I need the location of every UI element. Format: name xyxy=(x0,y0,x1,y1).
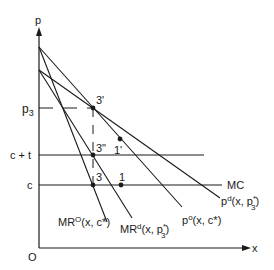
point-3 xyxy=(91,183,96,188)
point-1-prime xyxy=(118,137,123,142)
point-3-prime-label: 3' xyxy=(96,94,104,106)
x-axis-label: x xyxy=(252,242,258,254)
mc-label: MC xyxy=(227,179,244,191)
c-tick-label: c xyxy=(27,179,33,191)
point-1 xyxy=(119,183,124,188)
demand-po-label: po(x, c*) xyxy=(182,213,221,226)
x-axis-arrow-icon xyxy=(242,245,251,251)
point-3-prime xyxy=(91,106,96,111)
point-3-label: 3 xyxy=(96,171,102,183)
point-1-label: 1 xyxy=(119,171,125,183)
point-3-double-prime-label: 3" xyxy=(96,142,106,154)
origin-label: O xyxy=(28,251,37,263)
p3-tick-label: p3 xyxy=(22,102,34,118)
c-plus-t-tick-label: c + t xyxy=(10,149,31,161)
economics-diagram: p x O 3' 3" 3 1 1' p3 c + t c MC pd(x, p… xyxy=(0,0,274,270)
demand-pd-label: pd(x, p*3) xyxy=(221,194,259,212)
mr-d-label: MRd(x, p*3) xyxy=(120,222,169,240)
mr-o-label: MRO(x, c*) xyxy=(58,215,110,228)
point-3-double-prime xyxy=(91,153,96,158)
demand-pd-curve xyxy=(39,70,220,198)
y-axis-arrow-icon xyxy=(36,27,42,36)
y-axis-label: p xyxy=(35,14,41,26)
point-1-prime-label: 1' xyxy=(114,144,122,156)
mr-o-curve xyxy=(39,47,107,222)
